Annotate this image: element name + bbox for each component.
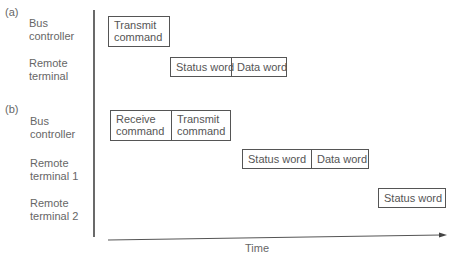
- data-word-box-rt1: Data word: [311, 149, 369, 169]
- row-label-line: Remote: [30, 197, 78, 210]
- row-label-line: terminal 1: [30, 170, 78, 183]
- box-text: command: [116, 125, 166, 137]
- data-word-box: Data word: [231, 57, 287, 77]
- panel-b-tag: (b): [5, 103, 18, 116]
- row-label-line: Remote: [29, 57, 68, 70]
- row-label: Remote terminal 1: [30, 157, 78, 183]
- row-label-line: Bus: [29, 17, 74, 30]
- status-word-box: Status word: [170, 57, 232, 77]
- row-label: Bus controller: [30, 115, 75, 141]
- status-word-box-rt2: Status word: [378, 188, 446, 208]
- receive-command-box: Receive command: [110, 110, 172, 141]
- panel-a-tag: (a): [5, 6, 18, 19]
- transmit-command-box: Transmit command: [171, 110, 231, 141]
- time-axis-label: Time: [245, 242, 269, 255]
- row-label-line: controller: [30, 128, 75, 141]
- row-label-line: controller: [29, 30, 74, 43]
- box-text: Transmit: [114, 19, 164, 31]
- row-label: Bus controller: [29, 17, 74, 43]
- box-text: command: [177, 125, 225, 137]
- box-text: Transmit: [177, 113, 225, 125]
- status-word-box-rt1: Status word: [242, 149, 312, 169]
- transmit-command-box: Transmit command: [108, 16, 170, 47]
- row-label-line: Remote: [30, 157, 78, 170]
- row-label-line: Bus: [30, 115, 75, 128]
- row-label: Remote terminal: [29, 57, 68, 83]
- row-label-line: terminal 2: [30, 210, 78, 223]
- box-text: command: [114, 31, 164, 43]
- arrow-head-icon: [439, 233, 447, 238]
- row-label: Remote terminal 2: [30, 197, 78, 223]
- time-axis: [108, 235, 441, 240]
- box-text: Receive: [116, 113, 166, 125]
- row-label-line: terminal: [29, 70, 68, 83]
